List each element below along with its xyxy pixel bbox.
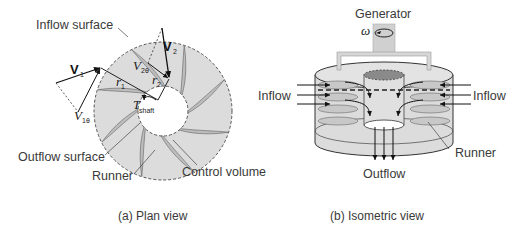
plan-view-caption: (a) Plan view	[118, 209, 188, 223]
outflow-surface-label: Outflow surface	[18, 150, 105, 164]
plan-view: Inflow surface Outflow surface Runner Co…	[18, 18, 266, 223]
isometric-view-caption: (b) Isometric view	[330, 209, 424, 223]
inflow-surface-label: Inflow surface	[36, 18, 113, 32]
generator-label: Generator	[355, 7, 411, 21]
v2-symbol: V	[163, 39, 172, 54]
outflow-label: Outflow	[363, 167, 406, 181]
v1-symbol: V	[70, 62, 79, 77]
r2-subscript: 2	[157, 81, 161, 88]
inflow-left-label: Inflow	[258, 89, 292, 103]
runner-label-b: Runner	[455, 146, 496, 160]
v2-subscript: 2	[173, 48, 177, 55]
center-column	[364, 75, 404, 125]
control-volume-label: Control volume	[182, 165, 266, 179]
inflow-right-label: Inflow	[473, 89, 507, 103]
runner-label: Runner	[92, 169, 133, 183]
v1-subscript: 1	[80, 71, 84, 78]
generator-shaft	[373, 24, 395, 54]
column-top	[364, 70, 404, 80]
torque-subscript: shaft	[139, 107, 154, 114]
r1-subscript: 1	[121, 83, 125, 90]
omega-symbol: ω	[361, 23, 370, 38]
turbine-diagram: Inflow surface Outflow surface Runner Co…	[0, 0, 516, 231]
isometric-view: Generator ω Inflow Inflow Outflow Runner…	[258, 7, 507, 223]
v1theta-subscript: 1θ	[82, 117, 90, 124]
inflow-surface-leader	[118, 28, 128, 37]
v2theta-subscript: 2θ	[141, 67, 149, 74]
